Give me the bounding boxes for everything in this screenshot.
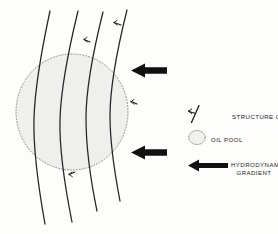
- hydrodynamic-gradient-arrow: [188, 160, 228, 172]
- structure-contour-symbol: [189, 106, 200, 123]
- structure-map-figure: STRUCTURE CONTOURS OIL POOL HYDRODYNAMIC…: [0, 0, 278, 234]
- legend-label-oil-pool: OIL POOL: [211, 136, 243, 144]
- oil-pool-symbol: [189, 131, 205, 145]
- legend-label-hydrodynamic-gradient: HYDRODYNAMIC GRADIENT: [231, 161, 277, 176]
- legend-label-structure-contours: STRUCTURE CONTOURS: [232, 113, 278, 121]
- legend-label-hydrodynamic-line2: GRADIENT: [231, 169, 277, 177]
- legend-label-hydrodynamic-line1: HYDRODYNAMIC: [231, 161, 277, 169]
